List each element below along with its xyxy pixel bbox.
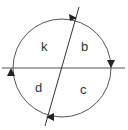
region-label-k: k [41,39,48,54]
region-label-d: d [35,80,42,95]
arrow-left-up-icon [7,68,15,76]
diagram-canvas: k b d c [0,0,128,130]
slanted-line [45,7,79,126]
region-label-b: b [81,39,88,54]
region-label-c: c [80,82,87,97]
arrow-right-down-icon [107,60,115,68]
